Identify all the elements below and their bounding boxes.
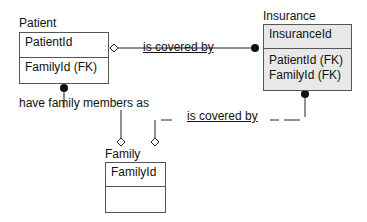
- insurance-entity[interactable]: InsuranceId PatientId (FK) FamilyId (FK): [263, 24, 352, 91]
- family-title: Family: [105, 147, 140, 161]
- diamond-icon: [110, 44, 118, 52]
- relationship-label: is covered by: [143, 40, 214, 54]
- family-entity[interactable]: FamilyId: [105, 162, 166, 213]
- dot-icon: [251, 44, 259, 52]
- patient-entity[interactable]: PatientId FamilyId (FK): [19, 32, 109, 84]
- patient-attr: FamilyId (FK): [20, 58, 108, 77]
- relationship-label: have family members as: [19, 96, 149, 110]
- insurance-key: InsuranceId: [264, 25, 351, 49]
- er-diagram: Patient PatientId FamilyId (FK) Insuranc…: [0, 0, 367, 222]
- relationship-label: is covered by: [187, 109, 258, 123]
- patient-key: PatientId: [20, 33, 108, 58]
- patient-title: Patient: [19, 16, 56, 30]
- insurance-title: Insurance: [263, 9, 316, 23]
- family-key: FamilyId: [106, 163, 165, 187]
- insurance-attr: PatientId (FK): [269, 53, 346, 68]
- insurance-attr: FamilyId (FK): [269, 68, 346, 83]
